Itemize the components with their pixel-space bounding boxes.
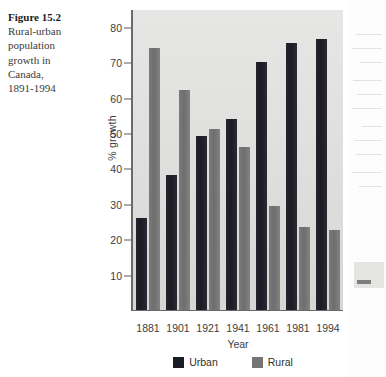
bar-urban-1901: [166, 175, 177, 310]
y-axis-tickmark-40: [124, 169, 131, 170]
y-axis-tick-80: 80: [110, 22, 122, 34]
y-axis-tick-50: 50: [110, 128, 122, 140]
x-axis-tick-1941: 1941: [223, 322, 253, 334]
page-edge-column: [348, 0, 386, 377]
x-axis-tick-labels: 1881190119211941196119811994: [133, 322, 343, 334]
y-axis-tick-70: 70: [110, 57, 122, 69]
bar-rural-1921: [209, 129, 220, 310]
bar-group-1981: [283, 10, 313, 310]
plot-wrapper: % growth 1020304050607080: [78, 8, 346, 320]
y-axis-tickmark-20: [124, 240, 131, 241]
legend-item-rural: Rural: [252, 356, 293, 368]
bar-group-1901: [163, 10, 193, 310]
bar-urban-1921: [196, 136, 207, 310]
y-axis-tick-60: 60: [110, 93, 122, 105]
x-axis-tick-1961: 1961: [253, 322, 283, 334]
bar-rural-1961: [269, 206, 280, 310]
legend-swatch-rural-icon: [252, 357, 263, 368]
bar-rural-1901: [179, 90, 190, 310]
plot-area: [133, 10, 343, 311]
x-axis-tick-1994: 1994: [313, 322, 343, 334]
bar-group-1994: [313, 10, 343, 310]
page-edge-thumbnail: [354, 262, 384, 288]
x-axis-label: Year: [133, 338, 343, 350]
bar-group-1941: [223, 10, 253, 310]
bar-rural-1881: [149, 48, 160, 310]
y-axis-tick-20: 20: [110, 234, 122, 246]
bar-urban-1981: [286, 43, 297, 310]
x-axis-tick-1921: 1921: [193, 322, 223, 334]
chart-legend: UrbanRural: [118, 356, 348, 368]
bar-rural-1941: [239, 147, 250, 310]
bar-rural-1981: [299, 227, 310, 310]
figure-chart: % growth 1020304050607080 18811901192119…: [78, 8, 346, 370]
y-axis-tick-labels: 1020304050607080: [92, 10, 122, 312]
y-axis-tickmark-80: [124, 27, 131, 28]
y-axis-tick-40: 40: [110, 163, 122, 175]
bar-group-1961: [253, 10, 283, 310]
y-axis-tick-10: 10: [110, 270, 122, 282]
figure-caption: Figure 15.2 Rural-urban population growt…: [8, 10, 72, 95]
bar-urban-1941: [226, 119, 237, 310]
bar-group-1881: [133, 10, 163, 310]
bar-group-1921: [193, 10, 223, 310]
figure-caption-body: Rural-urban population growth in Canada,…: [8, 24, 72, 95]
y-axis-tickmark-30: [124, 204, 131, 205]
bar-urban-1994: [316, 39, 327, 310]
x-axis-tick-1981: 1981: [283, 322, 313, 334]
y-axis-tickmark-70: [124, 63, 131, 64]
bar-urban-1881: [136, 218, 147, 310]
legend-swatch-urban-icon: [173, 357, 184, 368]
figure-caption-title: Figure 15.2: [8, 10, 72, 24]
y-axis-tickmark-10: [124, 275, 131, 276]
x-axis-tick-1881: 1881: [133, 322, 163, 334]
y-axis-tickmark-60: [124, 98, 131, 99]
bar-urban-1961: [256, 62, 267, 310]
x-axis-tick-1901: 1901: [163, 322, 193, 334]
legend-label-rural: Rural: [268, 356, 293, 368]
y-axis-tick-marks: [124, 10, 131, 312]
legend-item-urban: Urban: [173, 356, 218, 368]
legend-label-urban: Urban: [189, 356, 218, 368]
y-axis-tick-30: 30: [110, 199, 122, 211]
y-axis-tickmark-50: [124, 133, 131, 134]
bar-rural-1994: [329, 230, 340, 310]
bar-groups: [133, 10, 343, 310]
